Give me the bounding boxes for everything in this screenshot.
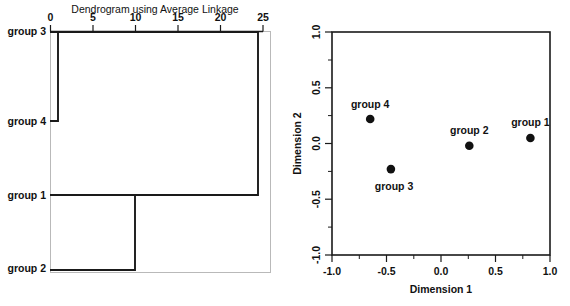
dendrogram-tick-label-0: 0 [48,11,54,23]
data-point-marker[interactable] [465,141,474,150]
data-point-marker[interactable] [387,165,396,174]
scatter-y-axis-title: Dimension 2 [291,112,303,175]
dendrogram-tick-label-25: 25 [257,11,269,23]
scatter-ytick-label-0.5: 0.5 [310,80,322,95]
dendrogram-axis-ticks [51,25,264,32]
scatter-xtick-label--1.0: -1.0 [323,265,341,277]
dendrogram-leaf-label-group-3: group 3 [8,25,47,37]
dendrogram-panel-border [51,32,271,273]
scatter-y-axis-ticks [325,32,332,255]
data-point-label: group 1 [511,116,550,128]
scatter-point-group-3[interactable]: group 3 [375,165,414,192]
scatterplot-panel: 1.0 0.5 0.0 -0.5 -1.0 Dimension 2 -1.0 -… [285,0,570,306]
dendrogram-leaf-label-group-1: group 1 [8,189,47,201]
dendrogram-leaf-label-group-2: group 2 [8,262,47,274]
scatter-ytick-label--0.5: -0.5 [310,190,322,208]
data-point-marker[interactable] [366,115,375,124]
dendrogram-leaf-label-group-4: group 4 [8,115,47,127]
scatter-point-group-1[interactable]: group 1 [511,116,550,142]
dendrogram-tick-label-5: 5 [90,11,96,23]
scatter-xtick-label-0.0: 0.0 [434,265,449,277]
dendrogram-link-group1-group2 [50,195,135,270]
data-point-label: group 3 [375,180,414,192]
scatter-x-axis-title: Dimension 1 [410,283,473,295]
scatter-xtick-label-0.5: 0.5 [488,265,503,277]
dendrogram-svg: Dendrogram using Average Linkage 0 5 10 … [0,0,285,306]
scatter-x-axis-ticks [332,255,550,262]
scatter-point-group-4[interactable]: group 4 [351,98,390,124]
dendrogram-link-group3-group4 [50,32,58,121]
scatter-plot-frame [332,32,550,255]
dendrogram-tick-label-20: 20 [215,11,227,23]
dendrogram-tick-label-10: 10 [130,11,142,23]
scatter-point-group-2[interactable]: group 2 [450,124,489,150]
data-point-label: group 2 [450,124,489,136]
scatterplot-svg: 1.0 0.5 0.0 -0.5 -1.0 Dimension 2 -1.0 -… [285,0,570,306]
scatter-ytick-label-1.0: 1.0 [310,25,322,40]
data-point-label: group 4 [351,98,390,110]
dendrogram-panel: Dendrogram using Average Linkage 0 5 10 … [0,0,285,306]
data-point-marker[interactable] [526,134,535,143]
scatter-xtick-label--0.5: -0.5 [377,265,395,277]
dendrogram-tick-label-15: 15 [172,11,184,23]
scatter-ytick-label-0.0: 0.0 [310,136,322,151]
scatter-ytick-label--1.0: -1.0 [310,246,322,264]
dendrogram-link-root [58,32,258,195]
scatter-xtick-label-1.0: 1.0 [543,265,558,277]
